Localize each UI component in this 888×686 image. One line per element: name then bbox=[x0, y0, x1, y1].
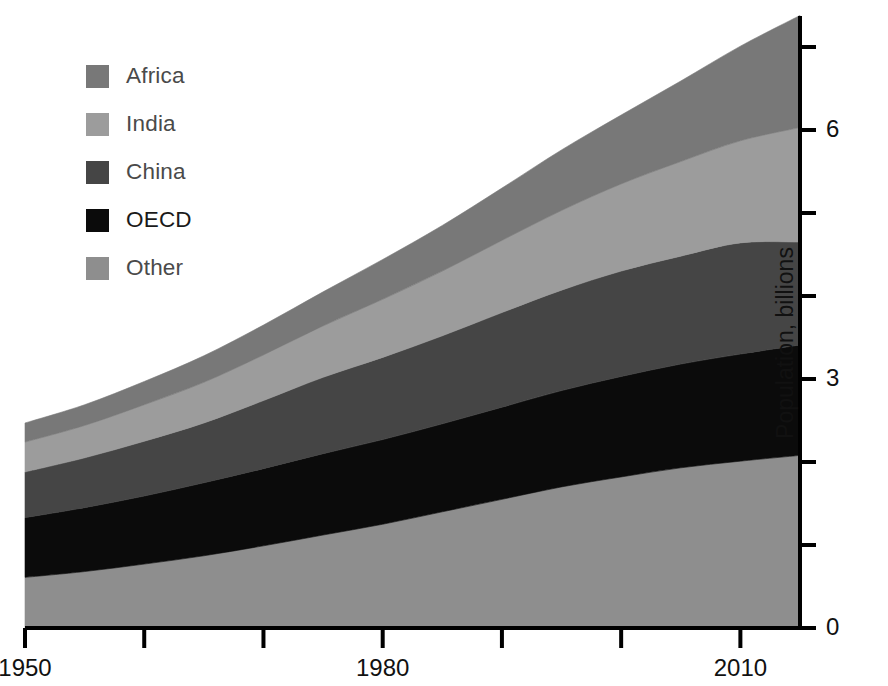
legend-item-oecd[interactable]: OECD bbox=[86, 196, 286, 244]
legend-item-china[interactable]: China bbox=[86, 148, 286, 196]
legend-label-other: Other bbox=[126, 255, 183, 281]
chart-legend: Africa India China OECD Other bbox=[86, 52, 286, 292]
x-tick-label-2010: 2010 bbox=[714, 654, 767, 682]
legend-item-india[interactable]: India bbox=[86, 100, 286, 148]
y-tick-label-0: 0 bbox=[826, 613, 839, 641]
legend-swatch-other bbox=[86, 257, 109, 280]
legend-label-india: India bbox=[126, 111, 176, 137]
legend-label-oecd: OECD bbox=[126, 207, 192, 233]
legend-swatch-china bbox=[86, 161, 109, 184]
y-axis-title: Population, billions bbox=[773, 247, 800, 439]
legend-swatch-africa bbox=[86, 65, 109, 88]
x-tick-label-1950: 1950 bbox=[0, 654, 52, 682]
y-tick-label-6: 6 bbox=[826, 115, 839, 143]
legend-label-africa: Africa bbox=[126, 63, 185, 89]
legend-item-other[interactable]: Other bbox=[86, 244, 286, 292]
legend-swatch-oecd bbox=[86, 209, 109, 232]
legend-item-africa[interactable]: Africa bbox=[86, 52, 286, 100]
y-tick-label-3: 3 bbox=[826, 364, 839, 392]
population-stacked-area-chart: Africa India China OECD Other 0361950198… bbox=[0, 0, 888, 686]
x-tick-label-1980: 1980 bbox=[356, 654, 409, 682]
legend-label-china: China bbox=[126, 159, 186, 185]
legend-swatch-india bbox=[86, 113, 109, 136]
